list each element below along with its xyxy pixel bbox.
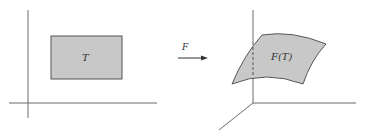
mapping-diagram: T F F(T) <box>0 0 365 138</box>
region-t-label: T <box>82 53 89 63</box>
surface-label: F(T) <box>271 52 292 62</box>
right-panel <box>219 10 356 130</box>
left-panel <box>9 10 157 118</box>
mapping-label: F <box>182 43 188 52</box>
mapping-arrow <box>178 56 208 61</box>
arrow-head-icon <box>201 56 208 61</box>
diagram-canvas <box>0 0 365 138</box>
right-depth-axis <box>219 103 253 130</box>
